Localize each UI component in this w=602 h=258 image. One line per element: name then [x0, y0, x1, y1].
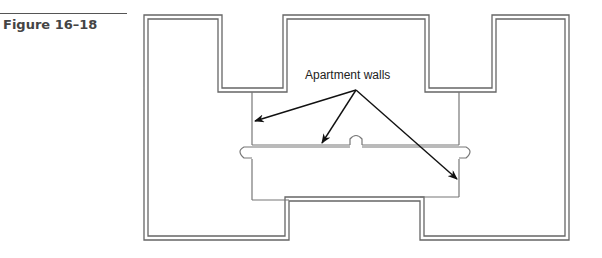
arrow-corridor-wall — [322, 90, 356, 143]
callout-arrows — [255, 90, 457, 179]
arrow-left-wall — [255, 90, 356, 121]
exterior-wall — [144, 15, 569, 240]
apartment-walls — [240, 92, 470, 200]
floor-plan: Apartment walls — [0, 0, 602, 258]
arrow-right-wall — [356, 90, 457, 179]
callout-label: Apartment walls — [305, 68, 390, 82]
